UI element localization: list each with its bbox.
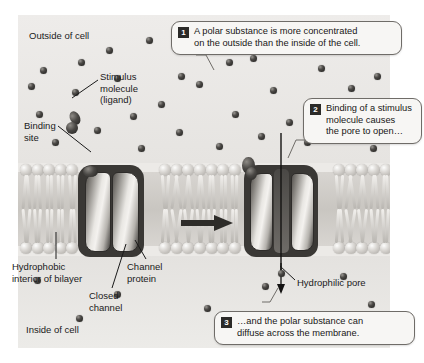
lipid-head	[194, 242, 206, 254]
callout-2-text: Binding of a stimulus molecule causes th…	[326, 103, 412, 138]
lipid-head	[32, 242, 44, 254]
label-stimulus-molecule: Stimulus molecule (ligand)	[100, 71, 138, 106]
particle-outside	[370, 145, 377, 152]
lipid-head	[368, 242, 380, 254]
callout-2-number: 2	[310, 104, 321, 115]
particle-inside	[76, 315, 83, 322]
particle-inside	[204, 305, 211, 312]
lipid-head	[229, 242, 241, 254]
callout-1-number: 1	[178, 27, 189, 38]
particle-outside	[146, 37, 153, 44]
lipid-head	[171, 242, 183, 254]
callout-3-number: 3	[221, 317, 232, 328]
particle-outside	[250, 55, 257, 62]
lipid-head	[55, 242, 67, 254]
lipid-head	[345, 242, 357, 254]
particle-outside	[216, 143, 223, 150]
label-channel-protein: Channel protein	[127, 261, 162, 284]
label-hydrophobic-interior: Hydrophobic interior of bilayer	[12, 261, 82, 284]
particle-outside	[158, 101, 165, 108]
particle-outside	[138, 145, 145, 152]
particle-diffusing	[278, 270, 285, 277]
particle-inside	[262, 283, 269, 290]
particle-outside	[270, 87, 277, 94]
particle-outside	[72, 89, 79, 96]
particle-outside	[36, 111, 43, 118]
lipid-head	[182, 242, 194, 254]
lipid-head	[20, 242, 32, 254]
stimulus-molecule-lobe	[66, 122, 78, 134]
particle-outside	[106, 47, 113, 54]
callout-3-text: …and the polar substance can diffuse acr…	[237, 316, 363, 339]
lipid-head	[356, 242, 368, 254]
lipid-head	[66, 242, 78, 254]
closed-channel-protein	[78, 165, 144, 257]
lipid-head	[159, 242, 171, 254]
lipid-tail	[45, 209, 49, 243]
diagram-panel	[18, 15, 390, 348]
lipid-head	[333, 242, 345, 254]
arrow-right-icon	[181, 215, 233, 231]
particle-outside	[196, 81, 203, 88]
callout-2[interactable]: 2 Binding of a stimulus molecule causes …	[303, 98, 422, 144]
open-channel-protein	[244, 165, 318, 257]
particle-outside	[40, 67, 47, 74]
lipid-tail	[49, 175, 53, 209]
particle-outside	[286, 119, 293, 126]
lipid-tail	[49, 209, 53, 243]
open-pore-lumen	[274, 169, 289, 253]
lipid-head	[206, 242, 218, 254]
particle-inside	[368, 301, 375, 308]
figure-canvas: Outside of cell Inside of cell Stimulus …	[0, 0, 424, 363]
particle-outside	[78, 59, 85, 66]
lipid-tail	[45, 175, 49, 209]
particle-outside	[130, 113, 137, 120]
particle-outside	[374, 73, 381, 80]
label-hydrophilic-pore: Hydrophilic pore	[297, 277, 366, 289]
label-closed-channel: Closed channel	[89, 290, 122, 313]
callout-1[interactable]: 1 A polar substance is more concentrated…	[171, 21, 402, 55]
label-inside-of-cell: Inside of cell	[26, 324, 79, 336]
lipid-head	[43, 242, 55, 254]
phospholipid-bilayer	[18, 160, 390, 258]
particle-outside	[318, 65, 325, 72]
particle-outside	[258, 133, 265, 140]
particle-outside	[226, 59, 233, 66]
particle-outside	[94, 127, 101, 134]
particle-outside	[348, 85, 355, 92]
particle-outside	[28, 83, 35, 90]
callout-3[interactable]: 3 …and the polar substance can diffuse a…	[214, 311, 415, 345]
particle-outside	[178, 73, 185, 80]
particle-outside	[232, 111, 239, 118]
bound-ligand-lobe	[246, 167, 257, 180]
binding-site-pocket	[83, 166, 98, 177]
lipid-tail	[223, 175, 227, 209]
particle-outside	[176, 129, 183, 136]
lipid-head	[217, 242, 229, 254]
label-outside-of-cell: Outside of cell	[29, 30, 89, 42]
callout-1-text: A polar substance is more concentrated o…	[194, 26, 360, 49]
label-binding-site: Binding site	[24, 120, 56, 143]
lipid-head	[380, 242, 390, 254]
lipid-tail	[219, 175, 223, 209]
